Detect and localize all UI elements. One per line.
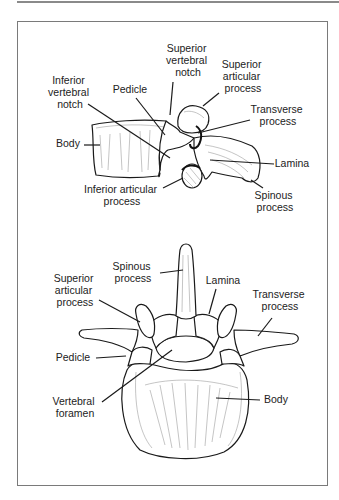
- label-lateral-pedicle: Pedicle: [113, 83, 148, 95]
- superior-spinous-shape: [176, 244, 196, 319]
- label-superior-superior-articular-process: Superior articular process: [54, 272, 97, 308]
- label-superior-transverse-process: Transverse process: [252, 288, 307, 312]
- lateral-superior-articular-shape: [178, 106, 209, 133]
- vertebra-diagram: Superior vertebral notch Superior articu…: [0, 0, 339, 500]
- label-lateral-inferior-articular-process: Inferior articular process: [84, 183, 160, 207]
- label-superior-body: Body: [264, 393, 289, 405]
- superior-view: Spinous process Superior articular proce…: [53, 244, 308, 459]
- lateral-view: Superior vertebral notch Superior articu…: [48, 42, 309, 213]
- label-lateral-transverse-process: Transverse process: [250, 103, 305, 127]
- label-lateral-body: Body: [56, 137, 81, 149]
- lateral-lamina-shape: [194, 136, 260, 182]
- label-lateral-lamina: Lamina: [275, 157, 310, 169]
- label-lateral-inferior-vertebral-notch: Inferior vertebral notch: [48, 74, 92, 110]
- label-lateral-spinous-process: Spinous process: [255, 189, 296, 213]
- superior-transverse-left-shape: [79, 329, 138, 353]
- label-lateral-superior-articular-process: Superior articular process: [222, 58, 265, 94]
- label-superior-vertebral-foramen: Vertebral foramen: [53, 395, 98, 419]
- superior-transverse-right-shape: [234, 330, 298, 356]
- label-superior-pedicle: Pedicle: [56, 351, 91, 363]
- label-lateral-superior-vertebral-notch: Superior vertebral notch: [166, 42, 210, 78]
- label-superior-spinous-process: Spinous process: [113, 260, 154, 284]
- label-superior-lamina: Lamina: [206, 274, 241, 286]
